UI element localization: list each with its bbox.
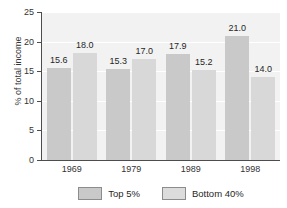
y-tick-mark [37, 130, 41, 131]
legend-label: Top 5% [108, 188, 140, 199]
bar-value-label: 18.0 [69, 41, 101, 50]
legend-label: Bottom 40% [192, 188, 244, 199]
bar-value-label: 15.2 [188, 58, 220, 67]
bar [132, 59, 156, 160]
bar-value-label: 17.9 [162, 42, 194, 51]
x-tick-label: 1969 [47, 164, 97, 174]
gridline [42, 12, 280, 13]
bar [251, 77, 275, 160]
x-tick-label: 1998 [225, 164, 275, 174]
x-axis-line [41, 160, 280, 161]
y-tick-mark [37, 12, 41, 13]
bar-value-label: 17.0 [128, 47, 160, 56]
bar-value-label: 15.3 [102, 57, 134, 66]
bar-value-label: 14.0 [247, 65, 279, 74]
y-axis-line [41, 12, 42, 161]
bar [47, 68, 71, 160]
bar-value-label: 21.0 [221, 24, 253, 33]
plot-area [42, 12, 280, 160]
y-tick-mark [37, 71, 41, 72]
legend-swatch [78, 187, 102, 200]
bar [192, 70, 216, 160]
chart-legend: Top 5%Bottom 40% [42, 183, 280, 203]
bar [166, 54, 190, 160]
legend-swatch [162, 187, 186, 200]
y-tick-label: 0 [4, 156, 34, 165]
bar-value-label: 15.6 [43, 56, 75, 65]
y-tick-mark [37, 160, 41, 161]
x-tick-label: 1979 [106, 164, 156, 174]
legend-item[interactable]: Top 5% [78, 187, 140, 200]
bar [106, 69, 130, 160]
bar [73, 53, 97, 160]
x-tick-label: 1989 [166, 164, 216, 174]
legend-item[interactable]: Bottom 40% [162, 187, 244, 200]
y-tick-mark [37, 101, 41, 102]
y-axis-title: % of total income [13, 1, 23, 141]
bar-chart: 15.618.015.317.017.915.221.014.0 0510152… [0, 0, 287, 208]
bar [225, 36, 249, 160]
y-tick-mark [37, 42, 41, 43]
